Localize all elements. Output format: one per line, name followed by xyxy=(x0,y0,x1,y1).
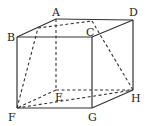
label-H: H xyxy=(131,92,141,105)
section-QH xyxy=(92,21,133,90)
label-F: F xyxy=(8,111,16,124)
label-E: E xyxy=(55,91,63,104)
vertex-labels: A B C D E F G H xyxy=(7,6,141,124)
label-G: G xyxy=(88,111,97,124)
edge-CD xyxy=(92,20,133,37)
cuboid-diagram: A B C D E F G H xyxy=(0,0,149,126)
label-D: D xyxy=(129,6,138,19)
edge-GH xyxy=(92,90,133,108)
section-FP xyxy=(17,28,38,108)
hidden-edges xyxy=(17,19,133,108)
diagonal-FH xyxy=(17,90,133,108)
section-PQ xyxy=(38,21,92,28)
label-C: C xyxy=(86,26,94,39)
edge-AD xyxy=(56,19,133,20)
label-A: A xyxy=(51,6,61,19)
edge-EF xyxy=(17,90,56,108)
edge-AB xyxy=(17,19,56,37)
label-B: B xyxy=(7,31,15,44)
visible-edges xyxy=(17,19,133,108)
